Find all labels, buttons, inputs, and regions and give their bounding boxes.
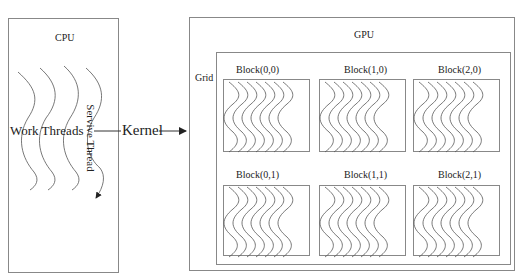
kernel-label: Kernel <box>122 122 163 139</box>
work-threads-label: Work Threads <box>10 123 83 139</box>
service-thread-label: Servive Thread <box>85 103 97 173</box>
